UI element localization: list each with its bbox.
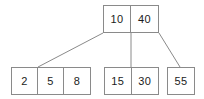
edge-root-to-leaf-3: [159, 33, 180, 67]
node-key-cell: 30: [132, 68, 158, 94]
tree-node-leaf-1[interactable]: 2 5 8: [11, 67, 91, 95]
btree-diagram: 10 40 2 5 8 15 30 55: [0, 0, 204, 99]
node-key-cell: 5: [38, 68, 64, 94]
node-key-cell: 40: [131, 6, 158, 32]
node-key-cell: 8: [64, 68, 90, 94]
node-key-cell: 2: [12, 68, 38, 94]
tree-node-root[interactable]: 10 40: [103, 5, 159, 33]
tree-node-leaf-2[interactable]: 15 30: [104, 67, 159, 95]
edge-root-to-leaf-1: [38, 33, 103, 67]
node-key-cell: 10: [104, 6, 131, 32]
node-key-cell: 15: [105, 68, 132, 94]
tree-node-leaf-3[interactable]: 55: [167, 67, 195, 95]
node-key-cell: 55: [168, 68, 194, 94]
